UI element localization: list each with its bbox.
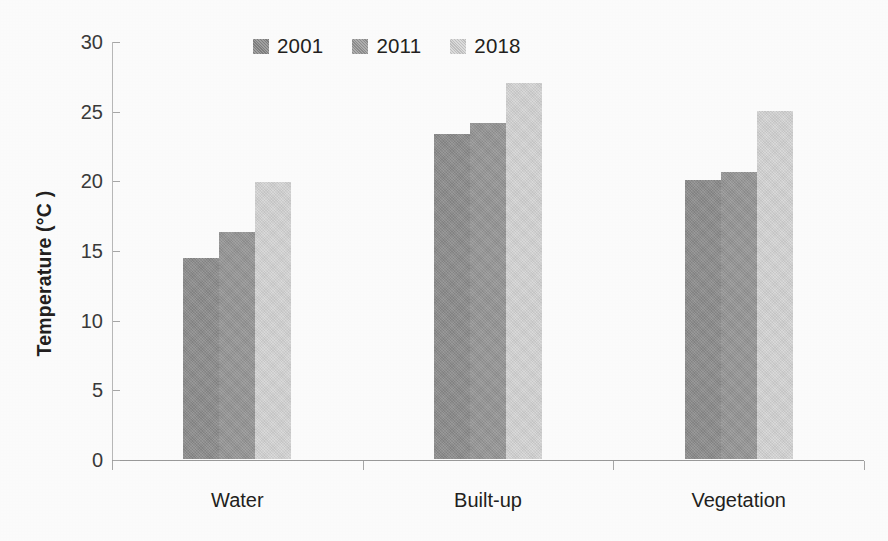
bar-water-2011 bbox=[219, 232, 255, 459]
x-tick bbox=[363, 461, 364, 470]
legend-item-2018: 2018 bbox=[450, 34, 520, 58]
y-tick-label: 20 bbox=[81, 170, 103, 193]
legend-item-2011: 2011 bbox=[352, 34, 421, 58]
x-tick bbox=[864, 461, 865, 470]
x-axis-label-water: Water bbox=[112, 489, 363, 512]
legend-swatch-icon-2011 bbox=[352, 39, 368, 54]
bar-vegetation-2011 bbox=[721, 172, 757, 459]
y-axis-title: Temperature (°C ) bbox=[33, 124, 56, 424]
x-tick bbox=[112, 461, 113, 470]
legend-label-2001: 2001 bbox=[277, 34, 323, 58]
y-tick: 30 bbox=[113, 42, 120, 43]
plot-area: 051015202530 WaterBuilt-upVegetation bbox=[112, 42, 864, 460]
x-axis-label-built-up: Built-up bbox=[363, 489, 614, 512]
y-tick-label: 15 bbox=[81, 240, 103, 263]
chart-legend: 200120112018 bbox=[253, 34, 521, 58]
y-tick-label: 10 bbox=[81, 309, 103, 332]
bar-built-up-2001 bbox=[434, 134, 470, 459]
y-tick: 25 bbox=[113, 112, 120, 113]
y-tick: 15 bbox=[113, 251, 120, 252]
y-tick: 0 bbox=[113, 460, 120, 461]
chart-figure: Temperature (°C ) 051015202530 WaterBuil… bbox=[0, 0, 888, 541]
bar-water-2018 bbox=[255, 182, 291, 459]
x-axis-line bbox=[112, 460, 864, 461]
x-tick bbox=[613, 461, 614, 470]
bar-vegetation-2018 bbox=[757, 111, 793, 459]
y-tick-label: 0 bbox=[92, 449, 103, 472]
bar-built-up-2011 bbox=[470, 123, 506, 459]
legend-swatch-icon-2018 bbox=[450, 39, 466, 54]
y-tick: 5 bbox=[113, 390, 120, 391]
legend-label-2018: 2018 bbox=[474, 34, 520, 58]
bar-vegetation-2001 bbox=[685, 180, 721, 459]
legend-item-2001: 2001 bbox=[253, 34, 323, 58]
bar-water-2001 bbox=[183, 258, 219, 459]
y-tick: 10 bbox=[113, 321, 120, 322]
y-tick-label: 5 bbox=[92, 379, 103, 402]
legend-label-2011: 2011 bbox=[376, 34, 421, 58]
bar-built-up-2018 bbox=[506, 83, 542, 459]
y-tick-label: 30 bbox=[81, 31, 103, 54]
y-tick: 20 bbox=[113, 181, 120, 182]
x-axis-label-vegetation: Vegetation bbox=[613, 489, 864, 512]
y-tick-label: 25 bbox=[81, 100, 103, 123]
legend-swatch-icon-2001 bbox=[253, 39, 269, 54]
